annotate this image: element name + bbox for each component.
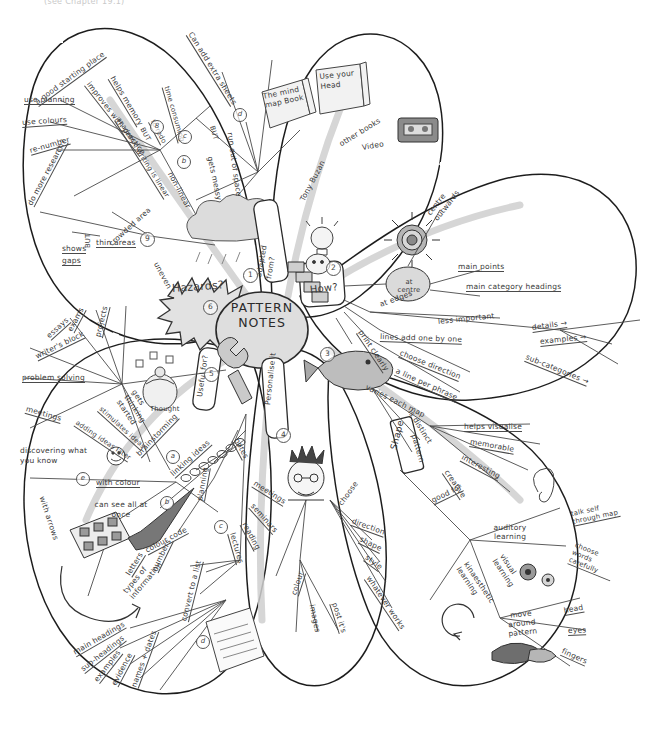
letter-badge-d: d xyxy=(196,635,210,649)
lightbulb-head-icon xyxy=(306,217,338,255)
number-badge-9: 9 xyxy=(140,232,155,247)
node-auditory-learning: auditory learning xyxy=(488,523,532,541)
letter-badge-e: e xyxy=(76,472,90,486)
node-use-your-head: Use your Head xyxy=(319,68,361,92)
video-cassette-icon xyxy=(398,118,438,142)
number-badge-4: 4 xyxy=(276,428,291,443)
paint-palette-brush-icon xyxy=(70,488,194,558)
node-but-thin: BUT xyxy=(84,234,92,248)
node-gaps: gaps xyxy=(62,256,81,266)
letter-badge-a: a xyxy=(166,450,180,464)
node-with-colour: with colour xyxy=(96,478,140,488)
letter-badge-b: b xyxy=(160,496,174,510)
node-discovering-what-you-know: discovering what you know xyxy=(20,446,90,466)
letter-badge-c-hazard: c xyxy=(178,130,192,144)
number-badge-6: 6 xyxy=(203,300,218,315)
arrow-loop-icon xyxy=(442,604,474,640)
number-badge-1: 1 xyxy=(243,268,258,283)
node-move-around-pattern: move around pattern xyxy=(499,607,546,638)
node-use-planning: use planning xyxy=(24,95,75,105)
node-eyes: eyes xyxy=(568,625,587,636)
node-main-category-headings: main category headings xyxy=(466,282,561,292)
number-badge-3: 3 xyxy=(320,347,335,362)
node-helps-visualise: helps visualise xyxy=(464,422,522,432)
document-list-icon xyxy=(206,608,264,672)
letter-badge-b-hazard: b xyxy=(177,155,191,169)
page-title: PATTERN NOTES xyxy=(219,300,305,330)
hand-pointing-icon xyxy=(492,643,556,663)
node-can-see-all-at-once: can see all at once xyxy=(92,500,150,520)
number-badge-5: 5 xyxy=(204,367,219,382)
node-main-points: main points xyxy=(458,262,504,272)
mind-map-canvas: (see Chapter 19.1) xyxy=(0,0,663,752)
letter-badge-c: c xyxy=(214,520,228,534)
letter-badge-d-hazard: d xyxy=(233,108,247,122)
node-shows: shows xyxy=(62,244,86,254)
icon-caption-thought: Thought xyxy=(150,405,180,413)
number-badge-2: 2 xyxy=(326,261,341,276)
node-problem-solving: problem solving xyxy=(22,373,85,383)
punk-head-icon xyxy=(288,446,324,500)
letter-badge-a-hazard: 8 xyxy=(150,120,164,134)
